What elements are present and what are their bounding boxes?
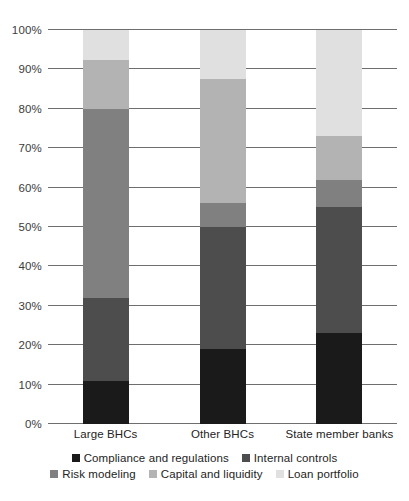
- bar-segment-capital-and-liquidity: [316, 136, 362, 179]
- bar-segment-compliance-and-regulations: [83, 381, 129, 424]
- legend-row-1: Compliance and regulationsInternal contr…: [0, 452, 409, 464]
- legend-item-loan-portfolio[interactable]: Loan portfolio: [276, 468, 359, 480]
- bar-segment-risk-modeling: [200, 203, 246, 227]
- y-tick-label-80%: 80%: [0, 103, 42, 115]
- legend-label: Risk modeling: [62, 468, 136, 480]
- stacked-bar-chart: 0%10%20%30%40%50%60%70%80%90%100% Large …: [0, 0, 409, 501]
- legend-swatch-icon: [242, 454, 250, 462]
- legend-label: Loan portfolio: [288, 468, 359, 480]
- y-tick-label-50%: 50%: [0, 221, 42, 233]
- legend-swatch-icon: [149, 470, 157, 478]
- y-tick-label-10%: 10%: [0, 379, 42, 391]
- y-tick-label-90%: 90%: [0, 63, 42, 75]
- y-tick-label-0%: 0%: [0, 418, 42, 430]
- y-tick-label-30%: 30%: [0, 300, 42, 312]
- legend-swatch-icon: [276, 470, 284, 478]
- y-tick-label-40%: 40%: [0, 260, 42, 272]
- bar-large-bhcs: [83, 30, 129, 424]
- bar-segment-risk-modeling: [83, 109, 129, 298]
- legend-item-capital-and-liquidity[interactable]: Capital and liquidity: [149, 468, 263, 480]
- bar-segment-capital-and-liquidity: [83, 60, 129, 109]
- legend-item-internal-controls[interactable]: Internal controls: [242, 452, 338, 464]
- y-tick-label-60%: 60%: [0, 182, 42, 194]
- y-tick-label-20%: 20%: [0, 339, 42, 351]
- y-tick-label-70%: 70%: [0, 142, 42, 154]
- bar-segment-capital-and-liquidity: [200, 79, 246, 203]
- x-axis-category-labels: Large BHCsOther BHCsState member banks: [48, 428, 397, 446]
- bar-other-bhcs: [200, 30, 246, 424]
- bar-segment-internal-controls: [83, 298, 129, 381]
- bar-segment-internal-controls: [316, 207, 362, 333]
- bar-segment-risk-modeling: [316, 180, 362, 208]
- legend-swatch-icon: [72, 454, 80, 462]
- chart-legend: Compliance and regulationsInternal contr…: [0, 452, 409, 484]
- bar-state-member-banks: [316, 30, 362, 424]
- bar-segment-loan-portfolio: [200, 30, 246, 79]
- bar-segment-compliance-and-regulations: [316, 333, 362, 424]
- bar-segment-loan-portfolio: [316, 30, 362, 136]
- x-label-state-member-banks: State member banks: [285, 428, 393, 440]
- legend-label: Internal controls: [254, 452, 338, 464]
- y-tick-label-100%: 100%: [0, 24, 42, 36]
- legend-item-risk-modeling[interactable]: Risk modeling: [50, 468, 136, 480]
- legend-label: Compliance and regulations: [84, 452, 229, 464]
- legend-swatch-icon: [50, 470, 58, 478]
- legend-label: Capital and liquidity: [161, 468, 263, 480]
- plot-area: [48, 30, 397, 424]
- bar-segment-compliance-and-regulations: [200, 349, 246, 424]
- bar-segment-loan-portfolio: [83, 30, 129, 60]
- legend-row-2: Risk modelingCapital and liquidityLoan p…: [0, 468, 409, 480]
- x-label-other-bhcs: Other BHCs: [191, 428, 254, 440]
- bar-segment-internal-controls: [200, 227, 246, 349]
- legend-item-compliance-and-regulations[interactable]: Compliance and regulations: [72, 452, 229, 464]
- x-label-large-bhcs: Large BHCs: [74, 428, 138, 440]
